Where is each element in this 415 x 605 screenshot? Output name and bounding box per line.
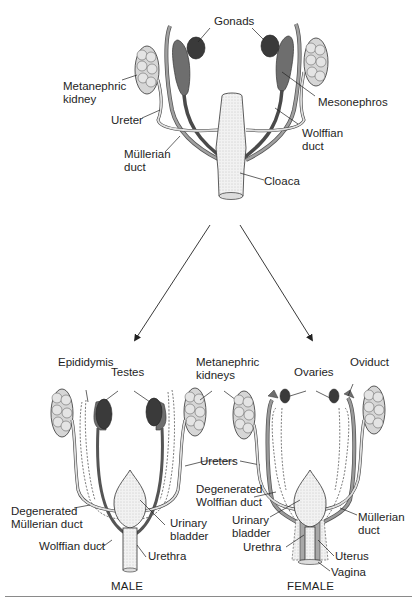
label-ureter: Ureter: [111, 114, 143, 127]
label-ureters: Ureters: [200, 455, 238, 468]
label-uterus: Uterus: [335, 550, 369, 563]
label-wolffian-duct-male: Wolffian duct: [39, 540, 105, 553]
label-ovaries: Ovaries: [294, 366, 334, 379]
label-urinary-bladder-female: Urinary bladder: [232, 514, 270, 540]
label-wolffian-duct: Wolffian duct: [302, 127, 343, 153]
label-mullerian-duct: Müllerian duct: [124, 148, 171, 174]
label-vagina: Vagina: [331, 566, 366, 579]
label-degenerated-wolffian-duct: Degenerated Wolffian duct: [196, 483, 263, 509]
label-oviduct: Oviduct: [350, 356, 389, 369]
label-mesonephros: Mesonephros: [318, 96, 388, 109]
label-urethra-male: Urethra: [148, 550, 186, 563]
left-metanephric-kidney: [135, 46, 159, 94]
label-mullerian-duct-female: Müllerian duct: [358, 511, 405, 537]
label-urinary-bladder-male: Urinary bladder: [170, 517, 208, 543]
label-cloaca: Cloaca: [264, 175, 300, 188]
caption-female: FEMALE: [287, 580, 334, 592]
right-metanephric-kidney: [304, 38, 328, 86]
label-gonads: Gonads: [214, 15, 254, 28]
label-epididymis: Epididymis: [58, 356, 114, 369]
label-metanephric-kidneys: Metanephric kidneys: [196, 356, 259, 382]
bottom-divider: [5, 596, 412, 597]
label-metanephric-kidney: Metanephric kidney: [63, 80, 126, 106]
arrow-to-female: [240, 225, 312, 340]
cloaca: [216, 93, 246, 200]
arrow-to-male: [135, 225, 210, 340]
label-urethra-female: Urethra: [243, 541, 281, 554]
caption-male: MALE: [111, 580, 143, 592]
label-testes: Testes: [111, 366, 144, 379]
label-degenerated-mullerian-duct: Degenerated Müllerian duct: [11, 505, 83, 531]
